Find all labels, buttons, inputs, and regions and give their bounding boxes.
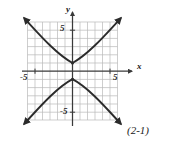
- x-axis-tick-label-negative-5: -5: [20, 73, 28, 82]
- y-axis-name-label: y: [66, 5, 70, 14]
- y-axis-tick-label-5: 5: [60, 24, 65, 33]
- vertex-lower: [71, 78, 74, 81]
- y-axis-tick-label-negative-5: -5: [60, 107, 68, 116]
- figure-caption: (2-1): [127, 124, 149, 136]
- hyperbola-figure: 5 -5 -5 5 x y (2-1): [0, 0, 173, 148]
- vertex-upper: [71, 62, 74, 65]
- x-axis-name-label: x: [137, 62, 142, 71]
- x-axis-tick-label-5: 5: [113, 73, 118, 82]
